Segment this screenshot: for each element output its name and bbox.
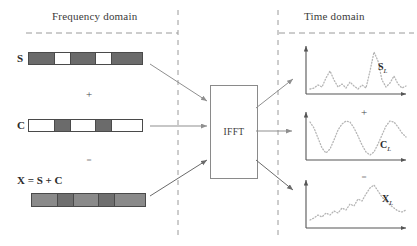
waveform-s-l <box>310 52 406 89</box>
plot-s-l-label: SL <box>378 61 388 75</box>
arrow-ifft-to-xl <box>256 160 293 190</box>
plot-s-l: SL <box>298 42 414 100</box>
plot-x-l: XL <box>298 176 414 238</box>
arrow-ifft-to-sl <box>256 79 293 108</box>
plot-c-l-label: CL <box>380 139 391 153</box>
figure-canvas: Frequency domain Time domain S + C = X =… <box>0 0 417 246</box>
plot-c-l: CL <box>298 108 414 166</box>
waveform-c-l <box>310 121 406 155</box>
plot-x-l-label: XL <box>382 193 393 207</box>
